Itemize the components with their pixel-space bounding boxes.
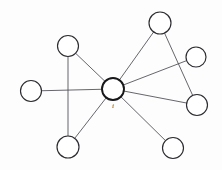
- node-circle-n3[interactable]: [57, 136, 79, 158]
- graph-edge-i-n4: [120, 32, 154, 79]
- graph-node-n7[interactable]: [163, 138, 184, 159]
- graph-node-i[interactable]: i: [102, 78, 124, 110]
- node-circle-n2[interactable]: [58, 36, 79, 57]
- node-circle-n7[interactable]: [163, 138, 184, 159]
- node-circle-i[interactable]: [102, 78, 124, 100]
- node-circle-n5[interactable]: [186, 47, 206, 67]
- graph-edge-i-n1: [42, 89, 102, 90]
- graph-node-n2[interactable]: [58, 36, 79, 57]
- node-circle-n4[interactable]: [149, 12, 171, 34]
- nodes-layer: i: [21, 12, 208, 159]
- node-circle-n6[interactable]: [187, 95, 208, 116]
- network-diagram: i: [0, 0, 222, 170]
- graph-node-n4[interactable]: [149, 12, 171, 34]
- graph-node-n1[interactable]: [21, 81, 42, 102]
- graph-edge-i-n2: [76, 54, 105, 82]
- node-circle-n1[interactable]: [21, 81, 42, 102]
- graph-edge-i-n5: [124, 61, 187, 85]
- graph-node-n5[interactable]: [186, 47, 206, 67]
- graph-node-n6[interactable]: [187, 95, 208, 116]
- graph-edge-i-n6: [124, 91, 186, 103]
- node-label-i: i: [112, 102, 114, 110]
- graph-edge-i-n7: [121, 97, 165, 140]
- graph-edge-i-n3: [75, 98, 106, 138]
- graph-node-n3[interactable]: [57, 136, 79, 158]
- graph-canvas: i: [0, 0, 222, 170]
